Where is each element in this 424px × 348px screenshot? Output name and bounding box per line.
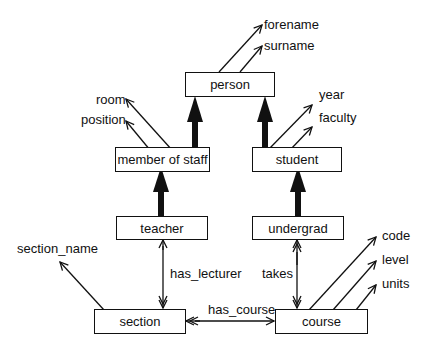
attr-code: code (382, 229, 410, 242)
er-diagram: person member of staff student teacher u… (0, 0, 424, 348)
rel-has-lecturer: has_lecturer (170, 267, 242, 280)
entity-section: section (94, 309, 186, 334)
attr-faculty: faculty (319, 111, 357, 124)
diagram-edges (0, 0, 424, 348)
entity-teacher: teacher (116, 216, 208, 240)
attr-level: level (382, 253, 409, 266)
attr-position: position (81, 113, 126, 126)
attr-surname: surname (264, 39, 315, 52)
entity-person: person (185, 72, 275, 97)
attr-forename: forename (264, 18, 319, 31)
rel-has-course: has_course (208, 303, 275, 316)
attr-section-name: section_name (17, 242, 98, 255)
entity-undergrad: undergrad (252, 216, 344, 240)
entity-member-of-staff: member of staff (115, 147, 210, 172)
attr-room: room (96, 93, 126, 106)
attr-year: year (319, 88, 344, 101)
rel-takes: takes (262, 267, 293, 280)
attr-units: units (382, 277, 409, 290)
entity-student: student (252, 147, 342, 172)
entity-course: course (275, 309, 368, 334)
